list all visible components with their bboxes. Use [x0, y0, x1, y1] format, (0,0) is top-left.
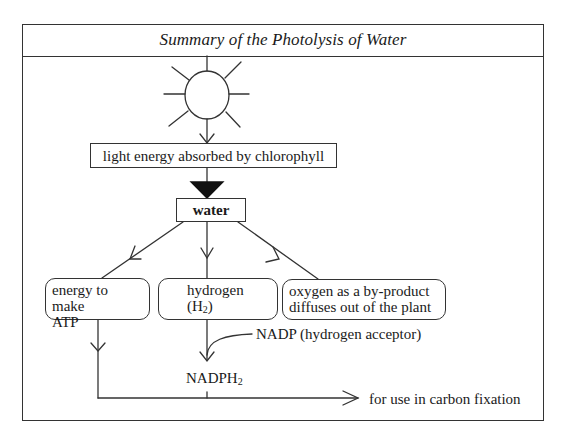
oxygen-line2: diffuses out of the plant: [289, 299, 439, 315]
nadph2-label: NADPH2: [186, 370, 243, 390]
filled-arrow-icon: [191, 182, 223, 198]
water-label: water: [193, 202, 230, 218]
diagram-connectors: [0, 0, 564, 447]
hydrogen-line1: hydrogen: [187, 282, 271, 298]
nadp-label: NADP (hydrogen acceptor): [256, 326, 421, 342]
oxygen-line1: oxygen as a by-product: [289, 283, 439, 299]
light-energy-label: light energy absorbed by chlorophyll: [103, 148, 324, 164]
carbon-fixation-label: for use in carbon fixation: [369, 391, 521, 407]
oxygen-box: oxygen as a by-product diffuses out of t…: [282, 279, 446, 320]
hydrogen-line2: (H2): [187, 298, 271, 318]
sun-icon: [164, 56, 249, 143]
light-energy-box: light energy absorbed by chlorophyll: [90, 143, 337, 168]
energy-atp-line2: ATP: [52, 314, 143, 330]
water-box: water: [176, 198, 246, 222]
energy-atp-line1: energy to make: [52, 282, 143, 314]
hydrogen-box: hydrogen (H2): [158, 278, 278, 320]
energy-atp-box: energy to make ATP: [45, 278, 150, 320]
